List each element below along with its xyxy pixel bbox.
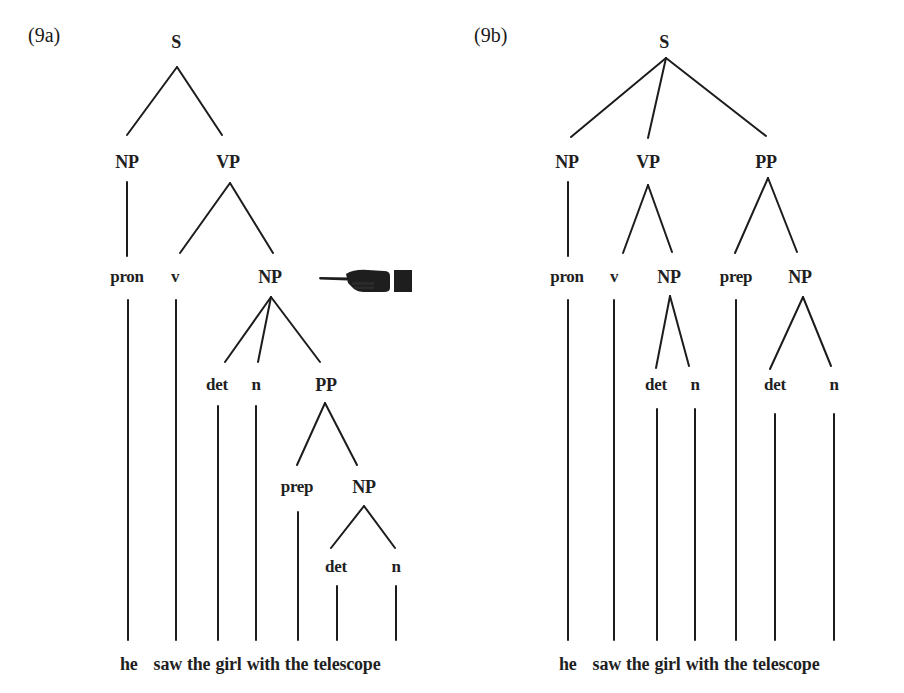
tree-edge xyxy=(648,185,672,252)
syntax-tree-figure: (9a) SNPVPpronvNPdetnPPprepNPdetn hesawt… xyxy=(0,0,904,693)
tree-edge xyxy=(735,178,768,253)
tree-edge xyxy=(803,297,831,366)
tree-node-pp: PP xyxy=(755,153,776,171)
tree-edge xyxy=(623,185,648,253)
tree-node-np2: NP xyxy=(657,268,680,286)
tree-node-n2: n xyxy=(391,558,400,576)
sentence-9a: hesawthegirlwiththetelescope xyxy=(120,654,385,674)
tree-node-vp: VP xyxy=(636,153,659,171)
tree-node-s: S xyxy=(171,33,181,51)
tree-edges xyxy=(0,0,904,693)
tree-node-pron: pron xyxy=(110,268,143,286)
tree-label-9a: (9a) xyxy=(28,25,60,45)
tree-node-det1: det xyxy=(206,376,228,394)
tree-edge xyxy=(127,67,177,135)
tree-node-det2: det xyxy=(764,376,786,394)
tree-node-np3: NP xyxy=(352,478,375,496)
tree-node-pp: PP xyxy=(315,376,336,394)
tree-node-prep: prep xyxy=(720,268,753,286)
tree-edge xyxy=(271,297,320,362)
tree-node-det1: det xyxy=(645,376,667,394)
tree-node-s: S xyxy=(659,33,669,51)
tree-node-np3: NP xyxy=(788,268,811,286)
tree-edge xyxy=(656,296,670,368)
tree-node-n1: n xyxy=(690,376,699,394)
sentence-word: the xyxy=(187,654,210,674)
sentence-word: with xyxy=(686,654,719,674)
tree-edge xyxy=(670,296,689,366)
tree-node-v: v xyxy=(171,268,179,286)
sentence-word: girl xyxy=(215,654,241,674)
sentence-word: saw xyxy=(154,654,182,674)
tree-edge xyxy=(770,297,803,369)
sentence-word: the xyxy=(285,654,308,674)
tree-label-9b: (9b) xyxy=(474,25,507,45)
tree-node-pron: pron xyxy=(550,268,583,286)
tree-node-np1: NP xyxy=(555,153,578,171)
tree-node-det2: det xyxy=(325,558,347,576)
sentence-word: telescope xyxy=(313,654,380,674)
tree-edge xyxy=(177,67,222,135)
tree-node-prep: prep xyxy=(281,478,314,496)
sentence-word: the xyxy=(724,654,747,674)
tree-edge xyxy=(325,403,357,465)
sentence-word: with xyxy=(247,654,280,674)
tree-node-n1: n xyxy=(251,376,260,394)
sentence-word: saw xyxy=(593,654,621,674)
tree-edge xyxy=(768,178,797,252)
tree-edge xyxy=(666,58,766,136)
tree-edge xyxy=(180,183,230,253)
sentence-word: he xyxy=(120,654,138,674)
tree-node-v: v xyxy=(610,268,618,286)
tree-node-np1: NP xyxy=(115,153,138,171)
tree-edge xyxy=(364,506,395,548)
sentence-word: girl xyxy=(654,654,680,674)
tree-node-vp: VP xyxy=(216,153,239,171)
tree-edge xyxy=(331,506,364,548)
tree-edge xyxy=(297,403,325,465)
tree-edge xyxy=(230,183,273,253)
pointing-hand-icon xyxy=(318,268,414,298)
tree-node-n2: n xyxy=(829,376,838,394)
sentence-9b: hesawthegirlwiththetelescope xyxy=(559,654,824,674)
sentence-word: he xyxy=(559,654,577,674)
sentence-word: telescope xyxy=(752,654,819,674)
tree-node-np2: NP xyxy=(258,268,281,286)
sentence-word: the xyxy=(626,654,649,674)
